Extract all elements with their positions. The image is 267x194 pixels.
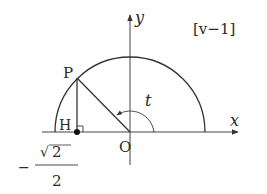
point-p-label: P (63, 64, 73, 82)
origin-label: O (119, 138, 131, 156)
h-coordinate-fraction: − √ 2 2 (18, 143, 78, 190)
unit-circle-diagram: [v−1] y x O P H t − √ 2 2 (0, 0, 267, 194)
y-axis-label: y (134, 8, 145, 27)
segment-op (77, 78, 130, 132)
angle-t-arc (117, 111, 154, 132)
x-axis-label: x (230, 111, 239, 130)
tag-label: [v−1] (193, 20, 235, 38)
numerator-value: 2 (52, 143, 62, 161)
angle-t-label: t (145, 91, 152, 110)
radical-sign: √ (40, 144, 49, 160)
point-h-label: H (59, 117, 71, 133)
denominator: 2 (52, 172, 62, 190)
minus-sign: − (18, 159, 30, 175)
point-h-dot (74, 129, 80, 135)
